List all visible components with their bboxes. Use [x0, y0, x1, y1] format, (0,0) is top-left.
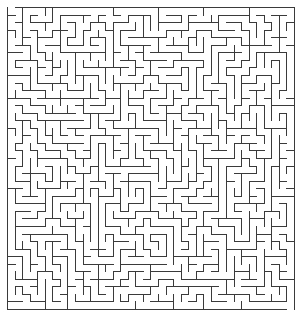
maze-wall-path — [8, 8, 295, 310]
maze — [0, 0, 300, 315]
maze-walls — [0, 0, 300, 315]
